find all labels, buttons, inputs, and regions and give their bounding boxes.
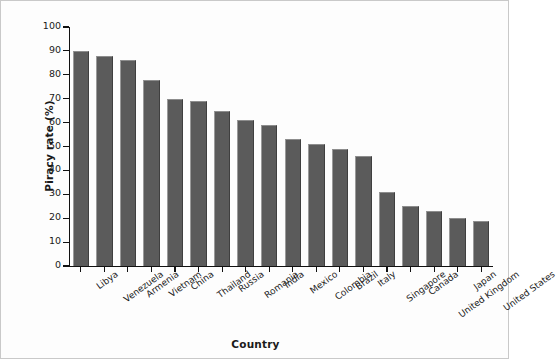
y-tick-label: 30 [29,187,61,198]
bar [96,56,112,266]
y-tick [63,26,69,27]
y-tick [63,170,69,171]
x-axis-line [69,266,493,267]
y-tick-label: 10 [29,235,61,246]
y-tick [63,194,69,195]
bar [355,156,371,266]
y-tick [63,218,69,219]
y-tick [63,74,69,75]
bar [402,206,418,266]
bar [332,149,348,266]
y-tick-label: 20 [29,211,61,222]
bar [449,218,465,266]
x-axis-title: Country [1,338,510,350]
y-tick [63,98,69,99]
bar [261,125,277,266]
bar [120,60,136,266]
y-tick-label: 40 [29,163,61,174]
y-tick-label: 80 [29,68,61,79]
y-tick [63,50,69,51]
bar [73,51,89,266]
x-axis-tick-labels: LibyaVenezuelaArmeniaVietnamChinaThailan… [69,269,509,339]
y-tick [63,265,69,266]
y-tick [63,242,69,243]
y-axis-line [69,27,70,266]
bar [237,120,253,266]
y-tick-label: 0 [29,259,61,270]
bar [379,192,395,266]
y-tick-label: 50 [29,140,61,151]
bar [190,101,206,266]
bar [473,221,489,266]
bar [308,144,324,266]
y-tick [63,122,69,123]
x-tick-label: Libya [94,269,119,291]
y-tick [63,146,69,147]
y-tick-label: 60 [29,116,61,127]
x-tick-label: India [282,269,306,290]
bar [214,111,230,266]
plot-area: 0102030405060708090100 [69,27,493,266]
bar [167,99,183,266]
x-tick-label: Italy [376,269,398,289]
y-tick-label: 90 [29,44,61,55]
y-tick-label: 70 [29,92,61,103]
y-tick-label: 100 [29,20,61,31]
bar [143,80,159,266]
bar [426,211,442,266]
bar [285,139,301,266]
